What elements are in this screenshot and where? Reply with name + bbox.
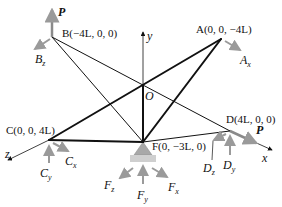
node-A-label: A(0, 0, −4L) [196, 23, 252, 36]
reaction-Ax-arrow [225, 41, 240, 50]
reaction-Fz-arrow [120, 168, 133, 178]
load-P-at-D-arrow [230, 131, 256, 143]
axes: y z x [4, 29, 272, 165]
truss-members [49, 37, 230, 142]
reaction-Fx-arrow [152, 168, 167, 177]
reaction-Fy-label: Fy [136, 188, 148, 204]
load-P-at-D-label: P [256, 123, 264, 137]
z-axis [8, 140, 49, 160]
support-base [130, 155, 156, 162]
node-O-label: O [145, 89, 154, 103]
x-axis-label: x [261, 151, 268, 165]
reaction-Cy-label: Cy [40, 166, 52, 182]
node-F-label: F(0, −3L, 0) [152, 140, 206, 153]
reaction-Dz-label: Dz [202, 161, 216, 177]
node-B-label: B(−4L, 0, 0) [62, 27, 117, 40]
reaction-Bz-arrow [35, 39, 50, 49]
reaction-Cx-arrow [53, 143, 68, 151]
load-P-at-B-label: P [58, 5, 66, 19]
member-C-F [49, 140, 143, 142]
member-C-A [49, 39, 221, 140]
Dz-leader-line [212, 141, 213, 160]
reaction-Fz-label: Fz [103, 178, 115, 194]
reaction-Dy-label: Dy [222, 158, 236, 174]
reaction-Cx-label: Cx [65, 154, 77, 170]
member-B-D [52, 37, 230, 131]
member-B-F [52, 37, 143, 142]
member-A-F [143, 39, 221, 142]
support-triangle [134, 142, 152, 155]
z-axis-label: z [4, 147, 10, 161]
reaction-Bz-label: Bz [35, 52, 46, 68]
node-C-label: C(0, 0, 4L) [6, 124, 55, 137]
reaction-Ax-label: Ax [239, 53, 251, 69]
reaction-Dz-arrow [214, 134, 226, 140]
y-axis-label: y [146, 29, 153, 43]
node-D-label: D(4L, 0, 0) [226, 113, 276, 126]
truss-diagram: y z x P P A(0, 0, −4L) B(−4 [0, 0, 282, 207]
reaction-Fx-label: Fx [167, 180, 179, 196]
